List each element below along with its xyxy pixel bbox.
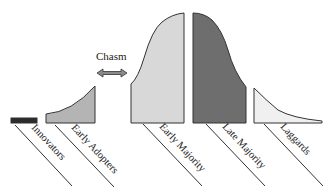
label-laggards: Laggards — [279, 121, 314, 157]
segment-early-majority — [131, 13, 184, 123]
chasm-label: Chasm — [96, 50, 127, 62]
segment-early-adopters — [46, 86, 95, 123]
segment-laggards — [254, 88, 322, 123]
label-late-majority: Late Majority — [221, 121, 269, 171]
adoption-diagram: Chasm Innovators Early Adopters Early Ma… — [0, 0, 331, 193]
segment-innovators — [11, 118, 37, 123]
double-arrow-icon — [97, 69, 127, 77]
segment-late-majority — [193, 13, 246, 123]
label-innovators: Innovators — [30, 122, 69, 162]
